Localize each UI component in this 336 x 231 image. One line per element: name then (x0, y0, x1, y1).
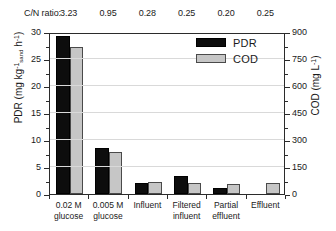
left-axis-tick-label: 30 (11, 28, 41, 37)
gridline (50, 112, 284, 113)
right-axis-tick-label: 0 (292, 190, 326, 199)
x-axis-tick (246, 195, 247, 199)
right-axis-minor-tick (285, 74, 288, 75)
bar-cod (188, 183, 202, 194)
bar-pdr (213, 188, 227, 194)
chart-figure: C/N ratio: 3.230.950.280.250.200.25 PDR … (0, 0, 336, 231)
right-axis-minor-tick (285, 47, 288, 48)
legend-item-cod: COD (196, 52, 258, 65)
left-axis-tick-label: 0 (11, 190, 41, 199)
left-axis-tick-label: 15 (11, 109, 41, 118)
right-axis-minor-tick (285, 128, 288, 129)
bar-cod (148, 182, 162, 194)
right-axis-tick (285, 195, 290, 196)
right-axis-tick-label: 900 (292, 28, 326, 37)
cn-ratio-value-3: 0.25 (172, 8, 202, 18)
cn-ratio-row: C/N ratio: 3.230.950.280.250.200.25 (0, 8, 336, 22)
bar-pdr (95, 148, 109, 194)
left-axis-minor-tick (46, 74, 49, 75)
right-axis-minor-tick (285, 101, 288, 102)
bar-cod (70, 47, 84, 194)
left-axis-tick (44, 33, 49, 34)
bar-pdr (174, 176, 188, 194)
right-axis-tick (285, 114, 290, 115)
gridline (50, 139, 284, 140)
x-axis-tick (167, 195, 168, 199)
legend-swatch-pdr (196, 38, 226, 47)
left-axis-tick-label: 20 (11, 82, 41, 91)
legend-label-cod: COD (233, 53, 258, 65)
right-axis-tick-label: 450 (292, 109, 326, 118)
bar-cod (109, 152, 123, 194)
cn-ratio-value-4: 0.20 (211, 8, 241, 18)
left-axis-tick (44, 87, 49, 88)
gridline (50, 166, 284, 167)
left-axis-tick (44, 114, 49, 115)
right-axis-tick-label: 750 (292, 55, 326, 64)
right-axis-minor-tick (285, 182, 288, 183)
left-axis-tick (44, 60, 49, 61)
right-axis-tick (285, 87, 290, 88)
x-axis-tick (88, 195, 89, 199)
x-axis-tick (206, 195, 207, 199)
cn-ratio-value-2: 0.28 (132, 8, 162, 18)
left-axis-tick (44, 195, 49, 196)
cn-ratio-value-0: 3.23 (54, 8, 84, 18)
legend-label-pdr: PDR (233, 37, 257, 49)
x-axis-tick (128, 195, 129, 199)
chart-legend: PDR COD (196, 36, 258, 68)
right-axis-tick (285, 60, 290, 61)
left-axis-tick (44, 168, 49, 169)
left-axis-tick-label: 25 (11, 55, 41, 64)
right-axis-tick-label: 300 (292, 136, 326, 145)
legend-swatch-cod (196, 54, 226, 63)
cn-ratio-value-5: 0.25 (250, 8, 280, 18)
gridline (50, 85, 284, 86)
cn-ratio-value-1: 0.95 (93, 8, 123, 18)
right-axis-minor-tick (285, 155, 288, 156)
left-axis-minor-tick (46, 182, 49, 183)
bar-cod (227, 184, 241, 194)
right-axis-tick (285, 141, 290, 142)
left-axis-tick-label: 5 (11, 163, 41, 172)
bar-pdr (56, 36, 70, 194)
right-axis-tick (285, 168, 290, 169)
x-axis-label-5: Effluent (242, 200, 288, 211)
right-axis-tick-label: 150 (292, 163, 326, 172)
legend-item-pdr: PDR (196, 36, 258, 49)
left-axis-minor-tick (46, 155, 49, 156)
left-axis-minor-tick (46, 47, 49, 48)
x-axis-tick (49, 195, 50, 199)
right-axis-tick-label: 600 (292, 82, 326, 91)
left-axis-tick (44, 141, 49, 142)
left-axis-minor-tick (46, 101, 49, 102)
left-axis-minor-tick (46, 128, 49, 129)
right-axis-tick (285, 33, 290, 34)
bar-cod (266, 183, 280, 194)
bar-pdr (135, 183, 149, 194)
left-axis-tick-label: 10 (11, 136, 41, 145)
